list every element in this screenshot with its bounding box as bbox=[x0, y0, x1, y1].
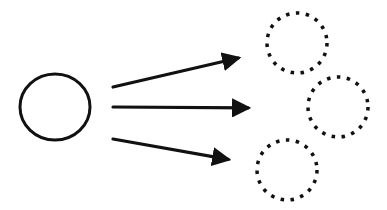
targets-group bbox=[257, 13, 368, 200]
arrow-to-bottom-target bbox=[113, 139, 228, 159]
arrow-to-middle-target bbox=[113, 107, 248, 108]
diagram-canvas bbox=[0, 0, 387, 210]
arrows-group bbox=[113, 58, 248, 159]
source-circle bbox=[20, 74, 90, 140]
dotted-circle-middle bbox=[308, 77, 368, 137]
arrow-to-top-target bbox=[113, 58, 238, 87]
dotted-circle-bottom bbox=[257, 140, 317, 200]
dotted-circle-top bbox=[267, 13, 327, 73]
